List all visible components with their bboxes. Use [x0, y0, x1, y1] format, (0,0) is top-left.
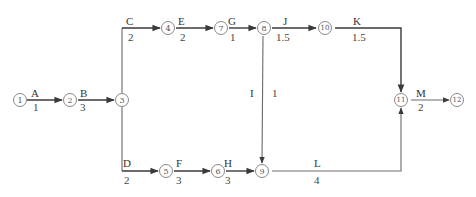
label-J: J	[283, 15, 288, 27]
duration-E: 2	[180, 31, 186, 43]
svg-text:9: 9	[259, 167, 264, 176]
node-6: 6	[212, 165, 225, 178]
svg-text:4: 4	[165, 24, 170, 33]
svg-text:1: 1	[17, 96, 22, 105]
duration-K: 1.5	[352, 31, 366, 43]
svg-text:7: 7	[218, 24, 223, 33]
edges	[27, 28, 449, 171]
label-H: H	[224, 157, 232, 169]
label-D: D	[123, 157, 131, 169]
label-C: C	[126, 15, 133, 27]
edge-L	[272, 108, 401, 171]
diagram-svg: 1 2 3 4 7 8 10 5 6 9 11 12 A 1 B 3 C 2 E…	[0, 0, 476, 197]
node-7: 7	[215, 22, 228, 35]
svg-text:3: 3	[119, 96, 124, 105]
node-8: 8	[258, 22, 271, 35]
label-M: M	[416, 87, 426, 99]
duration-M: 2	[418, 101, 424, 113]
duration-H: 3	[225, 174, 231, 186]
duration-J: 1.5	[276, 31, 290, 43]
duration-I: 1	[272, 87, 278, 99]
duration-A: 1	[33, 101, 39, 113]
svg-text:12: 12	[453, 96, 462, 104]
node-2: 2	[64, 94, 77, 107]
duration-B: 3	[80, 101, 86, 113]
svg-text:2: 2	[67, 96, 72, 105]
svg-text:5: 5	[163, 167, 168, 176]
duration-D: 2	[124, 174, 130, 186]
duration-G: 1	[230, 31, 236, 43]
label-K: K	[353, 15, 361, 27]
edge-I	[262, 36, 263, 163]
duration-F: 3	[176, 174, 182, 186]
edge-K	[335, 28, 401, 92]
label-F: F	[176, 157, 182, 169]
node-10: 10	[319, 22, 332, 35]
svg-text:10: 10	[321, 24, 330, 32]
node-9: 9	[256, 165, 269, 178]
label-G: G	[228, 15, 236, 27]
node-12: 12	[451, 94, 464, 107]
label-L: L	[314, 157, 321, 169]
node-5: 5	[160, 165, 173, 178]
label-E: E	[178, 15, 185, 27]
duration-L: 4	[314, 174, 320, 186]
node-1: 1	[14, 94, 27, 107]
label-I: I	[250, 87, 254, 99]
svg-text:6: 6	[215, 167, 220, 176]
label-A: A	[31, 87, 39, 99]
node-11: 11	[395, 94, 408, 107]
node-3: 3	[116, 94, 129, 107]
svg-text:8: 8	[261, 24, 266, 33]
network-diagram: 1 2 3 4 7 8 10 5 6 9 11 12 A 1 B 3 C 2 E…	[0, 0, 476, 197]
duration-C: 2	[128, 31, 134, 43]
svg-text:11: 11	[397, 96, 406, 104]
label-B: B	[80, 87, 87, 99]
node-4: 4	[162, 22, 175, 35]
